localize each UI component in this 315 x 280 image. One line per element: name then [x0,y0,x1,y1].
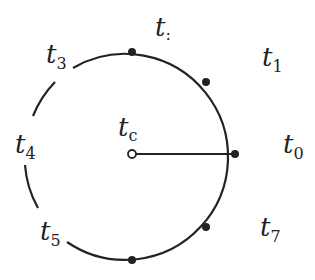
point-top [128,48,136,56]
center-point [128,150,136,158]
left-arc-lower [25,165,38,208]
point-t0 [231,150,239,158]
label-t0: t0 [283,129,304,163]
point-t1 [202,78,210,86]
label-t5: t5 [40,216,61,250]
point-bottom [128,256,136,264]
label-t3: t3 [46,39,67,73]
point-t7 [202,223,210,231]
label-t1: t1 [262,42,283,76]
label-t4: t4 [15,129,36,163]
label-top: t: [155,12,171,44]
label-t7: t7 [260,212,281,246]
clock-circle-diagram: tc t: t1 t0 t7 t5 t4 t3 [0,0,315,280]
left-arc-upper [33,82,55,116]
label-center: tc [118,112,137,145]
